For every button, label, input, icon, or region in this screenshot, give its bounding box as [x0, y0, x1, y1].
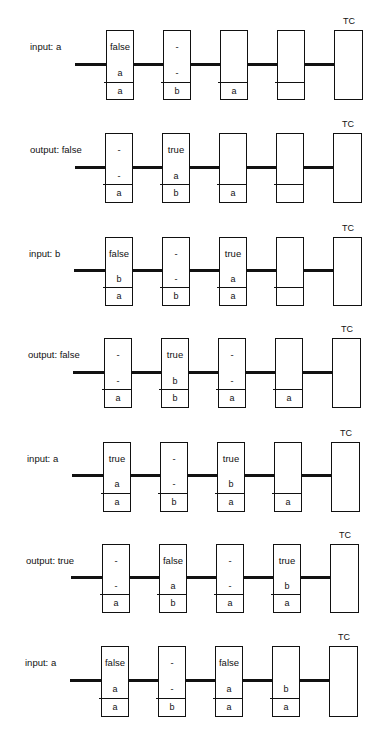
cell-box-3: true b a	[217, 442, 245, 512]
cell-stored-symbol: a	[107, 86, 133, 96]
cell-stored-symbol: a	[220, 188, 246, 198]
cell-box-2: true b b	[161, 338, 189, 408]
step-label: output: false	[28, 349, 80, 360]
cell-box-4	[277, 30, 305, 100]
terminal-box	[333, 237, 362, 306]
cell-divider	[271, 594, 300, 595]
terminal-label: TC	[340, 428, 352, 438]
cell-stored-symbol: a	[105, 393, 131, 403]
cell-divider	[218, 82, 247, 83]
cell-state: false	[216, 657, 242, 668]
cell-box-2: - - b	[158, 646, 186, 717]
step-label: output: true	[26, 555, 74, 566]
cell-state: -	[217, 555, 243, 566]
cell-state: -	[161, 453, 187, 464]
cell-box-4: true b a	[273, 544, 301, 613]
cell-box-1: true a a	[103, 442, 131, 512]
cell-box-3: true a a	[219, 237, 247, 306]
cell-divider	[274, 287, 303, 288]
cell-divider	[101, 493, 130, 494]
cell-current-symbol: -	[159, 684, 185, 694]
cell-state: -	[159, 657, 185, 668]
cell-stored-symbol: b	[164, 86, 190, 96]
cell-divider	[103, 287, 132, 288]
cell-stored-symbol: a	[274, 598, 300, 608]
cell-box-4: b a	[272, 646, 300, 717]
cell-stored-symbol: a	[216, 702, 242, 712]
cell-state: -	[105, 349, 131, 360]
cell-divider	[104, 82, 133, 83]
cell-stored-symbol: a	[275, 497, 301, 507]
cell-box-4: a	[274, 442, 302, 512]
cell-state: true	[274, 555, 300, 566]
cell-stored-symbol: a	[102, 702, 128, 712]
cell-current-symbol: b	[106, 274, 132, 284]
cell-stored-symbol: a	[106, 188, 132, 198]
terminal-box	[333, 133, 362, 203]
cell-state: true	[104, 453, 130, 464]
cell-stored-symbol: a	[273, 702, 299, 712]
cell-current-symbol: -	[103, 581, 129, 591]
cell-divider	[102, 389, 131, 390]
cell-box-2: true a b	[162, 133, 190, 203]
cell-divider	[213, 698, 242, 699]
cell-stored-symbol: a	[104, 497, 130, 507]
cell-divider	[160, 287, 189, 288]
cell-stored-symbol: a	[220, 291, 246, 301]
cell-state: -	[219, 349, 245, 360]
cell-divider	[217, 184, 246, 185]
cell-box-3: - - a	[218, 338, 246, 408]
cell-current-symbol: a	[220, 274, 246, 284]
cell-box-2: - - b	[160, 442, 188, 512]
cell-current-symbol: -	[219, 376, 245, 386]
cell-stored-symbol: a	[219, 393, 245, 403]
cell-stored-symbol: a	[218, 497, 244, 507]
cell-box-4: a	[275, 338, 303, 408]
cell-state: -	[164, 41, 190, 52]
terminal-label: TC	[341, 324, 353, 334]
cell-divider	[216, 389, 245, 390]
terminal-label: TC	[338, 632, 350, 642]
cell-state: -	[106, 144, 132, 155]
cell-divider	[158, 493, 187, 494]
cell-box-1: - - a	[102, 544, 130, 613]
cell-stored-symbol: b	[160, 598, 186, 608]
cell-divider	[159, 389, 188, 390]
cell-stored-symbol: a	[106, 291, 132, 301]
cell-box-3: - - a	[216, 544, 244, 613]
cell-state: -	[163, 248, 189, 259]
cell-divider	[217, 287, 246, 288]
terminal-label: TC	[339, 530, 351, 540]
cell-stored-symbol: b	[159, 702, 185, 712]
cell-state: false	[102, 657, 128, 668]
step-label: input: a	[30, 41, 61, 52]
cell-divider	[270, 698, 299, 699]
cell-box-3: a	[220, 30, 248, 100]
cell-divider	[272, 493, 301, 494]
cell-divider	[215, 493, 244, 494]
cell-state: false	[160, 555, 186, 566]
cell-current-symbol: a	[104, 479, 130, 489]
cell-stored-symbol: a	[221, 86, 247, 96]
cell-box-1: - - a	[104, 338, 132, 408]
cell-current-symbol: a	[160, 581, 186, 591]
cell-current-symbol: b	[274, 581, 300, 591]
cell-current-symbol: -	[161, 479, 187, 489]
cell-box-1: - - a	[105, 133, 133, 203]
cell-divider	[157, 594, 186, 595]
cell-box-3: false a a	[215, 646, 243, 717]
cell-stored-symbol: a	[217, 598, 243, 608]
terminal-label: TC	[343, 16, 355, 26]
cell-stored-symbol: b	[161, 497, 187, 507]
cell-current-symbol: a	[216, 684, 242, 694]
cell-stored-symbol: b	[162, 393, 188, 403]
step-label: input: b	[29, 248, 60, 259]
cell-divider	[103, 184, 132, 185]
cell-current-symbol: -	[105, 376, 131, 386]
cell-current-symbol: a	[102, 684, 128, 694]
terminal-box	[332, 338, 361, 408]
terminal-box	[334, 30, 363, 100]
cell-box-1: false a a	[106, 30, 134, 100]
cell-box-1: false a a	[101, 646, 129, 717]
cell-box-3: a	[219, 133, 247, 203]
